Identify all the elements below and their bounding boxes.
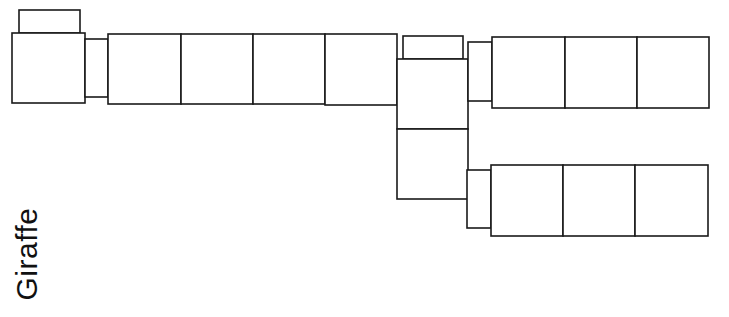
lower-leg-cell-2 xyxy=(563,165,635,236)
head-box xyxy=(12,33,85,103)
upper-leg-connector xyxy=(468,42,492,101)
animal-label: Giraffe xyxy=(9,208,43,301)
diagram-shapes xyxy=(12,10,709,236)
head-top-box xyxy=(19,10,80,33)
body-top-box xyxy=(403,36,463,59)
giraffe-box-diagram xyxy=(0,0,729,317)
lower-leg-cell-1 xyxy=(491,165,563,236)
animal-label-container: Giraffe xyxy=(6,200,46,308)
neck-cell-2 xyxy=(181,34,253,104)
upper-leg-cell-1 xyxy=(492,37,565,108)
upper-leg-cell-3 xyxy=(637,37,709,108)
neck-cell-1 xyxy=(108,34,181,104)
head-neck-connector xyxy=(85,39,108,97)
neck-cell-3 xyxy=(253,34,325,104)
neck-cell-4 xyxy=(325,34,397,105)
upper-leg-cell-2 xyxy=(565,37,637,108)
body-upper-box xyxy=(397,59,468,129)
lower-leg-cell-3 xyxy=(635,165,708,236)
body-lower-box xyxy=(397,129,468,199)
lower-leg-connector xyxy=(467,170,491,228)
